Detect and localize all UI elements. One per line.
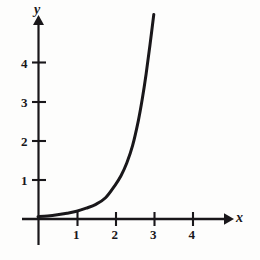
y-tick-label-1: 1: [21, 174, 28, 187]
y-tick-label-3: 3: [21, 96, 28, 109]
plot-canvas: [0, 0, 260, 260]
x-axis-arrow-icon: [224, 213, 234, 225]
x-tick-label-4: 4: [189, 228, 196, 241]
y-axis-label: y: [34, 3, 40, 17]
x-tick-label-3: 3: [150, 228, 157, 241]
x-axis-label: x: [236, 211, 243, 225]
x-tick-label-1: 1: [73, 228, 80, 241]
x-tick-label-2: 2: [112, 228, 119, 241]
exponential-curve: [38, 14, 154, 216]
exponential-graph-figure: 1 2 3 4 1 2 3 4 x y: [0, 0, 260, 260]
y-tick-label-4: 4: [21, 57, 28, 70]
y-tick-label-2: 2: [21, 135, 28, 148]
